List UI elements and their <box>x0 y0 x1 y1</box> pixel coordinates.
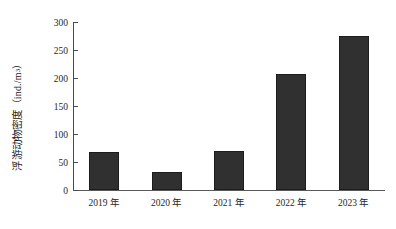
y-axis-unit-close: ） <box>13 58 23 68</box>
y-tick-label: 200 <box>54 74 68 84</box>
x-tick-label: 2022 年 <box>260 195 322 209</box>
bar <box>152 172 182 190</box>
bar-chart-figure: 浮游动物密度（ind./m3） 050100150200250300 2019 … <box>0 0 396 229</box>
bar <box>214 151 244 190</box>
x-tick-label: 2023 年 <box>323 195 385 209</box>
y-tick-label: 250 <box>54 46 68 56</box>
y-tick-label: 100 <box>54 130 68 140</box>
y-tick-label: 300 <box>54 18 68 28</box>
y-tick-label: 150 <box>54 102 68 112</box>
plot-area: 050100150200250300 <box>73 22 385 190</box>
bar-series <box>73 22 385 190</box>
y-axis-title-text: 浮游动物密度 <box>13 109 24 170</box>
x-tick-label: 2020 年 <box>135 195 197 209</box>
x-tick-label: 2021 年 <box>198 195 260 209</box>
bar <box>89 152 119 190</box>
x-axis-spine <box>73 190 385 191</box>
y-tick-label: 50 <box>59 158 69 168</box>
y-axis-title: 浮游动物密度（ind./m3） <box>0 0 36 229</box>
y-tick-mark <box>74 190 78 191</box>
bar <box>276 74 306 190</box>
x-tick-label: 2019 年 <box>73 195 135 209</box>
bar <box>339 36 369 190</box>
y-tick-label: 0 <box>63 186 68 196</box>
y-tick: 0 <box>73 190 78 191</box>
x-axis-labels: 2019 年2020 年2021 年2022 年2023 年 <box>73 195 385 215</box>
y-axis-unit-open: （ind./m <box>13 72 23 109</box>
